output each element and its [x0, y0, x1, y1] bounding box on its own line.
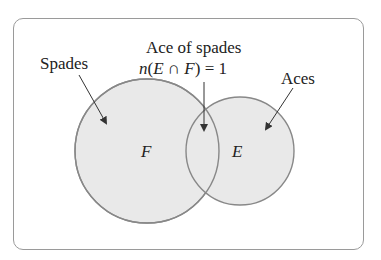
spades-label: Spades — [40, 55, 88, 72]
aces-label: Aces — [281, 70, 315, 87]
circle-f-symbol: F — [141, 143, 151, 160]
set-f-symbol: F — [184, 59, 194, 78]
intersection-count: nn((E ∩ F) = 1 — [139, 60, 227, 77]
venn-diagram: Spades Ace of spades nn((E ∩ F) = 1 Aces… — [0, 0, 381, 260]
circle-e-symbol: E — [232, 143, 242, 160]
count-value: ) = 1 — [195, 59, 227, 78]
set-e-symbol: E — [153, 59, 163, 78]
intersection-symbol: ∩ — [164, 59, 185, 78]
intersection-title: Ace of spades — [146, 39, 241, 56]
n-symbol: n — [139, 59, 148, 78]
